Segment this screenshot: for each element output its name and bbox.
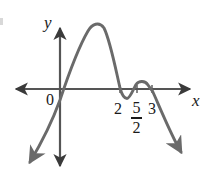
tick-label-2: 2	[114, 101, 122, 117]
tick-label-3: 3	[148, 101, 156, 117]
coordinate-plane-svg	[0, 0, 211, 184]
y-axis-label: y	[44, 14, 52, 31]
tick-label-5-over-2: 5 2	[131, 100, 142, 136]
fraction-denominator: 2	[132, 120, 142, 136]
fraction-numerator: 5	[132, 100, 142, 116]
origin-label: 0	[46, 92, 54, 108]
x-axis-label: x	[192, 92, 200, 109]
graph-figure: y x 0 2 5 2 3	[0, 0, 211, 184]
